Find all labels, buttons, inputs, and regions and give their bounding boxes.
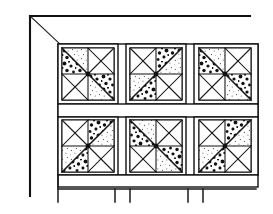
quilt-block-r1c1 <box>62 48 114 100</box>
quilt-block-r2c2 <box>130 120 182 172</box>
quilt-block-r2c1 <box>62 120 114 172</box>
quilt-rack-illustration: Quilt rack with pinwheel quilt blocks <box>0 0 273 214</box>
pinwheel-quilt <box>58 44 258 187</box>
quilt-block-r1c3 <box>199 48 251 100</box>
quilt-bottom-sash <box>58 175 258 187</box>
quilt-block-r2c3 <box>199 120 251 172</box>
quilt-block-r1c2 <box>130 48 182 100</box>
illustration-canvas <box>0 0 273 214</box>
quilt-middle-sash <box>58 104 258 117</box>
